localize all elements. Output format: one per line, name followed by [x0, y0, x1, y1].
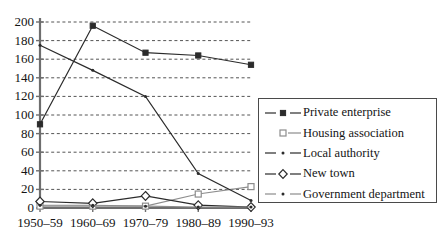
data-point-dot: [282, 193, 285, 196]
data-point-dot: [282, 152, 285, 155]
legend-item-label: Local authority: [303, 147, 380, 160]
data-point-filled-square: [90, 23, 95, 28]
y-axis-tick-label: 160: [0, 52, 34, 65]
data-point-open-square: [195, 191, 201, 197]
data-point-filled-square: [248, 62, 253, 67]
data-point-filled-square: [37, 122, 42, 127]
data-point-dot: [144, 95, 147, 98]
series-line-2: [40, 45, 251, 200]
line-chart: 200180160140120100806040200 1950–591960–…: [0, 0, 442, 243]
data-point-filled-square: [280, 110, 285, 115]
y-axis-tick-label: 60: [0, 145, 34, 158]
data-point-open-square: [280, 130, 286, 136]
x-axis-tick-label: 1990–93: [219, 216, 283, 229]
data-point-dot: [250, 206, 253, 209]
legend-item[interactable]: Private enterprise: [263, 102, 437, 123]
legend-item-label: Housing association: [303, 127, 404, 140]
data-point-open-diamond: [279, 169, 287, 178]
legend-item[interactable]: Housing association: [263, 122, 437, 143]
y-axis-tick-label: 0: [0, 201, 34, 214]
legend-marker-dot-icon: [263, 185, 303, 203]
y-axis-tick-label: 80: [0, 127, 34, 140]
data-point-dot: [250, 199, 253, 202]
data-point-open-diamond: [141, 192, 149, 201]
legend-item-label: Government department: [303, 188, 425, 201]
legend-item[interactable]: Government department: [263, 184, 437, 205]
legend-item[interactable]: Local authority: [263, 143, 437, 164]
data-point-dot: [197, 172, 200, 175]
y-axis-tick-label: 140: [0, 71, 34, 84]
data-point-filled-square: [143, 50, 148, 55]
data-point-dot: [91, 69, 94, 72]
y-axis-tick-label: 40: [0, 164, 34, 177]
y-axis-tick-label: 100: [0, 108, 34, 121]
legend-marker-filled-square-icon: [263, 104, 303, 122]
data-point-dot: [91, 204, 94, 207]
data-point-open-square: [248, 184, 254, 190]
data-point-dot: [39, 44, 42, 47]
data-point-dot: [197, 206, 200, 209]
legend-item[interactable]: New town: [263, 163, 437, 184]
legend-item-label: Private enterprise: [303, 106, 391, 119]
legend-item-label: New town: [303, 167, 355, 180]
y-axis-tick-label: 180: [0, 34, 34, 47]
legend-marker-open-square-icon: [263, 124, 303, 142]
y-axis-tick-label: 200: [0, 15, 34, 28]
y-axis-tick-label: 20: [0, 182, 34, 195]
chart-legend: Private enterpriseHousing associationLoc…: [258, 98, 437, 203]
data-point-dot: [144, 205, 147, 208]
data-point-dot: [39, 204, 42, 207]
y-axis-tick-label: 120: [0, 89, 34, 102]
legend-marker-dot-icon: [263, 144, 303, 162]
legend-marker-open-diamond-icon: [263, 165, 303, 183]
data-point-filled-square: [196, 53, 201, 58]
